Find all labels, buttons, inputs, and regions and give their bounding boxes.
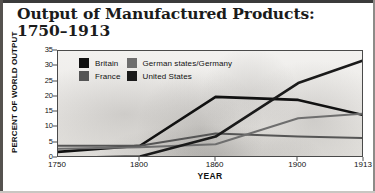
y-axis-tick-mark xyxy=(53,50,57,51)
y-axis-tick-mark xyxy=(53,111,57,112)
figure-container: Output of Manufactured Products: 1750–19… xyxy=(0,0,375,193)
x-axis-tick-label: 1900 xyxy=(288,161,306,169)
y-axis-tick-mark xyxy=(53,80,57,81)
y-axis-tick-label: 35 xyxy=(37,46,53,54)
legend-swatch xyxy=(79,71,89,81)
y-axis-tick-label: 10 xyxy=(37,123,53,131)
legend-swatch xyxy=(127,58,137,68)
series-line-german-states-germany xyxy=(58,114,363,149)
figure-title-line-1: Output of Manufactured Products: xyxy=(17,5,347,22)
y-axis-tick-label: 5 xyxy=(37,138,53,146)
x-axis-tick-mark xyxy=(297,157,298,161)
x-axis-tick-mark xyxy=(214,157,215,161)
y-axis-tick-label: 15 xyxy=(37,107,53,115)
y-axis-tick-label: 20 xyxy=(37,92,53,100)
y-axis-tick-mark xyxy=(53,126,57,127)
plot-area-wrapper: 05101520253035 17501800186019001913 YEAR… xyxy=(57,50,363,157)
x-axis-tick-label: 1913 xyxy=(354,161,372,169)
chart: PERCENT OF WORLD OUTPUT 05101520253035 1… xyxy=(16,44,368,176)
legend-label: United States xyxy=(143,72,233,81)
x-axis-tick-mark xyxy=(363,157,364,161)
figure-title: Output of Manufactured Products: 1750–19… xyxy=(17,5,347,39)
y-axis-tick-mark xyxy=(53,65,57,66)
legend-label: France xyxy=(95,72,121,81)
x-axis-title: YEAR xyxy=(57,171,363,181)
x-axis-tick-label: 1750 xyxy=(48,161,66,169)
x-axis-tick-label: 1860 xyxy=(206,161,224,169)
y-axis-tick-mark xyxy=(53,141,57,142)
y-axis-title: PERCENT OF WORLD OUTPUT xyxy=(9,57,21,153)
chart-legend: BritainGerman states/GermanyFranceUnited… xyxy=(79,58,232,81)
page-edge-top xyxy=(0,0,375,3)
y-axis-tick-mark xyxy=(53,157,57,158)
x-axis-tick-label: 1800 xyxy=(130,161,148,169)
y-axis-tick-mark xyxy=(53,95,57,96)
y-axis-tick-label: 25 xyxy=(37,77,53,85)
legend-swatch xyxy=(79,58,89,68)
legend-label: German states/Germany xyxy=(143,59,233,68)
legend-swatch xyxy=(127,71,137,81)
y-axis-tick-label: 30 xyxy=(37,62,53,70)
figure-title-line-2: 1750–1913 xyxy=(17,22,347,39)
page-edge-bottom xyxy=(0,191,375,193)
x-axis-tick-mark xyxy=(139,157,140,161)
page-edge-left xyxy=(0,0,3,193)
legend-label: Britain xyxy=(95,59,121,68)
